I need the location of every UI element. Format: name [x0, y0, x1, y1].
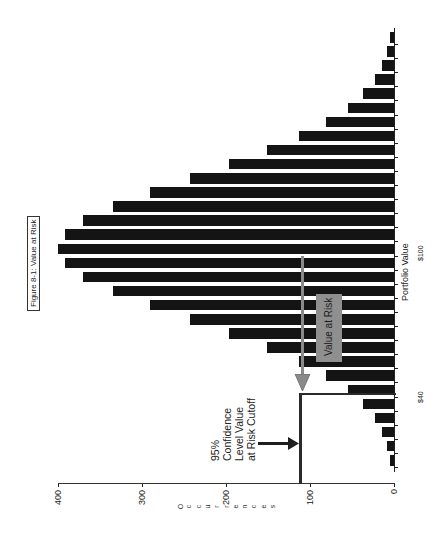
histogram-bar [150, 187, 394, 198]
cutoff-vertical-line [299, 394, 302, 484]
category-tick [395, 100, 398, 101]
category-tick [395, 213, 398, 214]
category-tick [395, 467, 398, 468]
histogram-bar [348, 103, 394, 114]
annotation-arrow-shaft [258, 442, 290, 445]
category-tick [395, 115, 398, 116]
histogram-bar [65, 229, 394, 240]
category-tick [395, 185, 398, 186]
annotation-arrow-head-icon [288, 437, 299, 450]
value-axis-title-letter: c [195, 505, 202, 509]
value-axis-title-letter: u [204, 505, 211, 509]
category-tick [395, 171, 398, 172]
category-tick [395, 86, 398, 87]
histogram-bar [387, 441, 394, 452]
category-tick [395, 312, 398, 313]
annotation-line-4: at Risk Cutoff [245, 398, 257, 461]
value-tick-label: 200 [221, 489, 231, 504]
var-arrow-head-icon [294, 374, 311, 392]
value-tick [58, 484, 59, 487]
histogram-bar [229, 159, 394, 170]
histogram-bar [375, 413, 394, 424]
category-axis-title: Portfolio Value [400, 243, 410, 301]
category-tick [395, 157, 398, 158]
category-tick [395, 382, 398, 383]
cutoff-annotation: 95% Confidence Level Value at Risk Cutof… [209, 398, 257, 461]
category-tick [395, 44, 398, 45]
histogram-bar [326, 117, 394, 128]
histogram-bar [83, 215, 394, 226]
histogram-bar [363, 88, 394, 99]
histogram-bar [150, 300, 394, 311]
value-axis-title-letter: c [251, 505, 258, 509]
category-tick [395, 439, 398, 440]
histogram-bar [299, 356, 394, 367]
value-tick [310, 484, 311, 487]
histogram-bar [267, 145, 394, 156]
histogram-bar [382, 60, 394, 71]
histogram-bar [229, 328, 394, 339]
value-tick-label: 0 [389, 488, 399, 493]
category-label-mean: $100 [417, 245, 424, 261]
value-tick [394, 484, 395, 487]
category-tick [395, 397, 398, 398]
annotation-line-1: 95% [209, 398, 221, 461]
value-axis-title-letter: O [177, 504, 184, 509]
annotation-line-3: Level Value [233, 398, 245, 461]
category-tick [395, 58, 398, 59]
annotation-line-2: Confidence [221, 398, 233, 461]
value-tick-label: 300 [137, 489, 147, 504]
histogram-bar [375, 74, 394, 85]
histogram-bar [387, 46, 394, 57]
value-axis-title-letter: c [186, 505, 193, 509]
value-tick [226, 484, 227, 487]
figure-title: Figure 8-1: Value at Risk [27, 216, 40, 311]
value-axis-title-letter: r [213, 505, 220, 507]
cutoff-horizontal-line [299, 393, 396, 395]
category-tick [395, 270, 398, 271]
value-at-risk-chart: Figure 8-1: Value at Risk 0100200300400 … [0, 0, 448, 542]
category-tick [395, 129, 398, 130]
category-tick [395, 199, 398, 200]
category-tick [395, 298, 398, 299]
histogram-bar [58, 244, 394, 255]
histogram-bar [113, 286, 394, 297]
histogram-bar [83, 272, 394, 283]
category-tick [395, 326, 398, 327]
category-tick [395, 354, 398, 355]
category-tick [395, 241, 398, 242]
category-tick [395, 453, 398, 454]
category-tick [395, 256, 398, 257]
value-axis-title-letter: n [242, 505, 249, 509]
histogram-bar [299, 131, 394, 142]
histogram-bar [363, 399, 394, 410]
category-tick [395, 368, 398, 369]
category-tick [395, 143, 398, 144]
value-tick-label: 400 [53, 489, 63, 504]
value-at-risk-label: Value at Risk [323, 298, 334, 356]
category-tick [395, 227, 398, 228]
category-tick [395, 411, 398, 412]
histogram-bar [326, 370, 394, 381]
value-tick [142, 484, 143, 487]
category-tick [395, 425, 398, 426]
histogram-bar [190, 314, 394, 325]
histogram-bar [190, 173, 394, 184]
value-axis-title-letter: e [260, 505, 267, 509]
var-arrow-shaft [301, 256, 304, 378]
histogram-bar [382, 427, 394, 438]
value-axis-title-letter: r [222, 505, 229, 507]
histogram-bar [113, 201, 394, 212]
histogram-bar [65, 258, 394, 269]
value-axis-title-letter: e [232, 505, 239, 509]
category-tick [395, 72, 398, 73]
category-tick [395, 284, 398, 285]
category-label-cutoff: $40 [417, 391, 424, 403]
value-axis-title-letter: s [269, 505, 276, 509]
category-axis-line [394, 28, 395, 472]
category-tick [395, 340, 398, 341]
value-tick-label: 100 [305, 489, 315, 504]
